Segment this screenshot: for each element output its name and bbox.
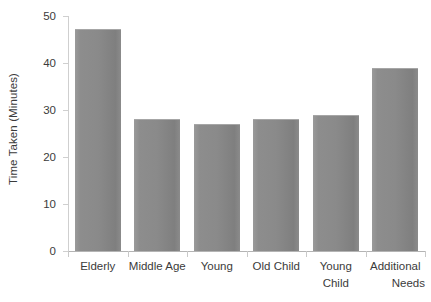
x-tick-label: Middle Age bbox=[128, 258, 188, 275]
x-tick-label-line1: Elderly bbox=[80, 260, 115, 272]
y-axis-tick-labels: 01020304050 bbox=[28, 0, 60, 258]
y-tick-mark bbox=[63, 110, 68, 111]
y-tick-mark bbox=[63, 157, 68, 158]
bar bbox=[194, 124, 240, 251]
bar bbox=[313, 115, 359, 251]
y-tick-mark bbox=[63, 204, 68, 205]
y-tick-label: 50 bbox=[43, 10, 56, 22]
y-tick-label: 10 bbox=[43, 198, 56, 210]
y-axis-title: Time Taken (Minutes) bbox=[0, 0, 26, 258]
x-tick-label-line1: Old Child bbox=[253, 260, 300, 272]
y-tick-mark bbox=[63, 63, 68, 64]
x-tick-mark bbox=[247, 251, 248, 257]
x-tick-label: Old Child bbox=[247, 258, 307, 275]
x-tick-mark bbox=[68, 251, 69, 257]
y-tick-label: 0 bbox=[50, 245, 56, 257]
x-tick-label-line2: Needs bbox=[366, 275, 426, 292]
bar-chart: Time Taken (Minutes) 01020304050 Elderly… bbox=[0, 0, 431, 302]
x-tick-mark bbox=[306, 251, 307, 257]
y-tick-label: 40 bbox=[43, 57, 56, 69]
bar bbox=[253, 119, 299, 251]
x-axis-tick-labels: ElderlyMiddle AgeYoungOld ChildYoung Chi… bbox=[68, 258, 425, 302]
x-tick-label-line1: Middle Age bbox=[129, 260, 186, 272]
x-tick-label-line1: Young Child bbox=[320, 260, 352, 289]
x-tick-mark bbox=[128, 251, 129, 257]
bar bbox=[372, 68, 418, 251]
x-tick-label: AdditionalNeeds bbox=[366, 258, 426, 292]
y-tick-mark bbox=[63, 16, 68, 17]
bar bbox=[75, 29, 121, 251]
x-tick-label: Elderly bbox=[68, 258, 128, 275]
y-axis-title-label: Time Taken (Minutes) bbox=[7, 73, 19, 185]
plot-area bbox=[68, 16, 425, 251]
y-axis-line bbox=[68, 16, 69, 251]
x-tick-label-line1: Young bbox=[201, 260, 233, 272]
y-tick-label: 20 bbox=[43, 151, 56, 163]
y-tick-label: 30 bbox=[43, 104, 56, 116]
x-tick-mark bbox=[425, 251, 426, 257]
x-tick-mark bbox=[187, 251, 188, 257]
x-tick-label-line1: Additional bbox=[370, 260, 421, 272]
x-tick-label: Young bbox=[187, 258, 247, 275]
x-tick-label: Young Child bbox=[306, 258, 366, 292]
x-tick-mark bbox=[366, 251, 367, 257]
bar bbox=[134, 119, 180, 251]
